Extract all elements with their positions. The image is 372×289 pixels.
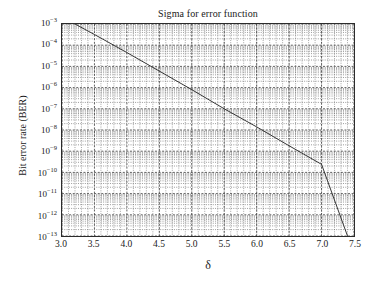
y-tick-label: 10−4 [41, 39, 57, 49]
x-axis-title: δ [61, 258, 355, 273]
y-axis-title: Bit error rate (BER) [17, 36, 28, 236]
y-tick-label: 10−12 [38, 211, 57, 221]
y-tick-label: 10−9 [41, 146, 57, 156]
x-tick-label: 5.5 [218, 239, 230, 249]
x-tick-label: 4.5 [153, 239, 165, 249]
x-tick-label: 7.5 [349, 239, 361, 249]
x-tick-label: 4.0 [120, 239, 132, 249]
y-tick-label: 10−11 [38, 189, 57, 199]
chart-figure: Sigma for error function 10−310−410−510−… [0, 0, 372, 289]
x-axis-tick-labels: 3.03.54.04.55.05.56.06.57.07.5 [0, 239, 372, 255]
y-tick-label: 10−7 [41, 104, 57, 114]
data-series-0 [75, 24, 348, 236]
x-tick-label: 7.0 [316, 239, 328, 249]
data-series-layer [62, 24, 354, 236]
x-tick-label: 3.5 [88, 239, 100, 249]
y-tick-label: 10−6 [41, 82, 57, 92]
y-tick-label: 10−8 [41, 125, 57, 135]
chart-title: Sigma for error function [61, 8, 355, 19]
plot-area [61, 23, 355, 237]
y-tick-label: 10−5 [41, 61, 57, 71]
x-tick-label: 3.0 [55, 239, 67, 249]
x-tick-label: 6.5 [284, 239, 296, 249]
y-tick-label: 10−10 [38, 168, 57, 178]
x-tick-label: 5.0 [186, 239, 198, 249]
x-tick-label: 6.0 [251, 239, 263, 249]
y-tick-label: 10−3 [41, 18, 57, 28]
